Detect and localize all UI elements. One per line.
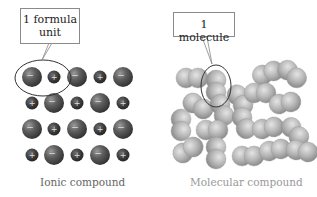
ionic-compound-panel: −+−+−+−+−+−+−+−+−+−+ 1 formula unit Ioni… xyxy=(0,0,160,197)
molecular-compound-panel: 1 molecule Molecular compound xyxy=(160,0,317,197)
callout-line2: unit xyxy=(21,26,79,39)
callout-line1: 1 formula xyxy=(21,13,79,26)
minus-sign-icon: − xyxy=(71,122,79,132)
cation-sphere: + xyxy=(26,149,39,162)
plus-sign-icon: + xyxy=(74,151,81,160)
ionic-caption: Ionic compound xyxy=(40,176,125,188)
anion-sphere: − xyxy=(90,93,110,113)
cation-sphere: + xyxy=(117,149,130,162)
cation-sphere: + xyxy=(48,71,61,84)
anion-sphere: − xyxy=(113,67,133,87)
cation-sphere: + xyxy=(117,97,130,110)
plus-sign-icon: + xyxy=(97,125,104,134)
cation-sphere: + xyxy=(71,97,84,110)
plus-sign-icon: + xyxy=(29,99,36,108)
molecule-callout: 1 molecule xyxy=(173,12,235,37)
minus-sign-icon: − xyxy=(94,148,102,158)
formula-unit-callout: 1 formula unit xyxy=(20,8,80,44)
plus-sign-icon: + xyxy=(29,151,36,160)
cation-sphere: + xyxy=(71,149,84,162)
callout-label: 1 molecule xyxy=(179,18,229,44)
minus-sign-icon: − xyxy=(26,122,34,132)
cation-sphere: + xyxy=(94,71,107,84)
minus-sign-icon: − xyxy=(94,96,102,106)
cation-sphere: + xyxy=(48,123,61,136)
minus-sign-icon: − xyxy=(117,70,125,80)
anion-sphere: − xyxy=(67,119,87,139)
minus-sign-icon: − xyxy=(26,70,34,80)
anion-sphere: − xyxy=(44,145,64,165)
anion-sphere: − xyxy=(22,119,42,139)
plus-sign-icon: + xyxy=(51,73,58,82)
minus-sign-icon: − xyxy=(48,148,56,158)
cation-sphere: + xyxy=(94,123,107,136)
diatomic-molecule xyxy=(171,109,191,141)
minus-sign-icon: − xyxy=(117,122,125,132)
plus-sign-icon: + xyxy=(120,151,127,160)
diatomic-molecule xyxy=(176,68,208,88)
diatomic-molecule xyxy=(251,115,286,140)
plus-sign-icon: + xyxy=(97,73,104,82)
minus-sign-icon: − xyxy=(71,70,79,80)
anion-sphere: − xyxy=(90,145,110,165)
diatomic-molecule xyxy=(206,137,226,169)
diatomic-molecule xyxy=(273,56,310,92)
diatomic-molecule xyxy=(196,120,228,140)
molecular-caption: Molecular compound xyxy=(190,176,303,188)
plus-sign-icon: + xyxy=(120,99,127,108)
plus-sign-icon: + xyxy=(74,99,81,108)
anion-sphere: − xyxy=(113,119,133,139)
cation-sphere: + xyxy=(26,97,39,110)
anion-sphere: − xyxy=(22,67,42,87)
callout-pointer xyxy=(42,43,52,60)
diatomic-molecule xyxy=(285,138,317,163)
plus-sign-icon: + xyxy=(51,125,58,134)
minus-sign-icon: − xyxy=(48,96,56,106)
